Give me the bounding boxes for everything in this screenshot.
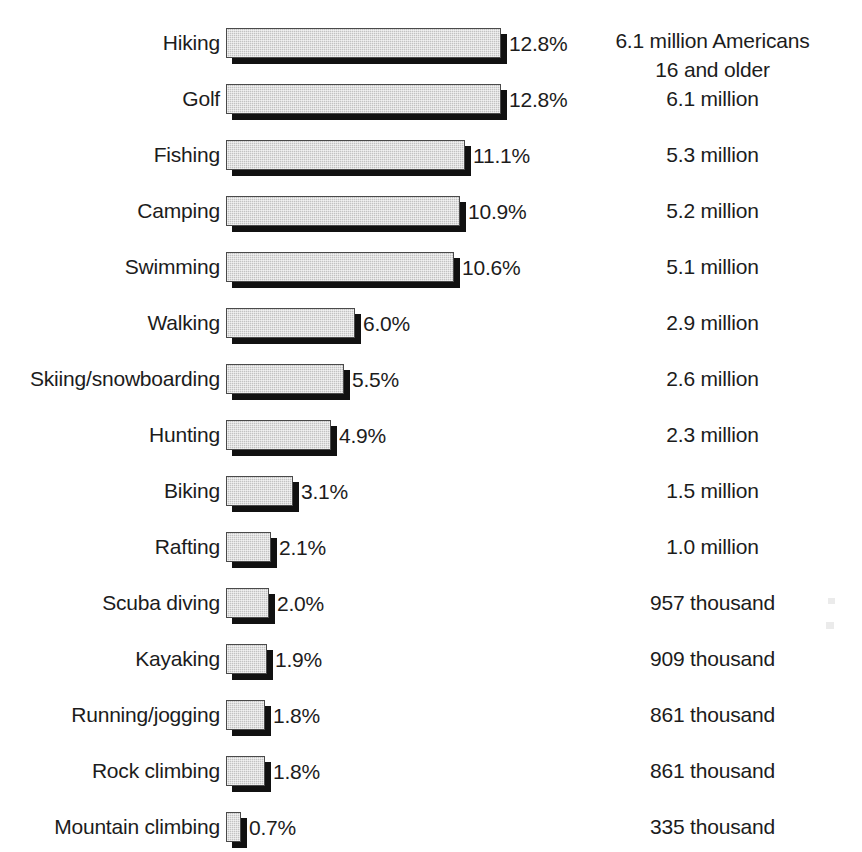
bar-value-label: 10.9%: [468, 196, 527, 226]
bar: [226, 700, 271, 736]
bar-row: Skiing/snowboarding5.5%2.6 million: [0, 364, 862, 420]
bar-row: Swimming10.6%5.1 million: [0, 252, 862, 308]
bar: [226, 812, 247, 848]
category-label: Camping: [0, 196, 220, 226]
category-label: Golf: [0, 84, 220, 114]
annotation-label: 957 thousand: [595, 588, 830, 618]
bar-value-label: 2.0%: [277, 588, 324, 618]
annotation-label: 2.9 million: [595, 308, 830, 338]
bar-row: Mountain climbing0.7%335 thousand: [0, 812, 862, 852]
scan-artifact: [826, 622, 834, 629]
bar: [226, 420, 337, 456]
bar-row: Camping10.9%5.2 million: [0, 196, 862, 252]
bar-value-label: 12.8%: [509, 28, 568, 58]
bar-row: Walking6.0%2.9 million: [0, 308, 862, 364]
category-label: Kayaking: [0, 644, 220, 674]
annotation-label: 5.2 million: [595, 196, 830, 226]
bar-row: Fishing11.1%5.3 million: [0, 140, 862, 196]
bar: [226, 140, 471, 176]
annotation-label: 1.0 million: [595, 532, 830, 562]
bar: [226, 644, 273, 680]
bar-value-label: 0.7%: [249, 812, 296, 842]
bar: [226, 476, 299, 512]
category-label: Scuba diving: [0, 588, 220, 618]
bar-row: Hiking12.8%6.1 million Americans 16 and …: [0, 28, 862, 84]
bar-row: Rock climbing1.8%861 thousand: [0, 756, 862, 812]
bar-row: Golf12.8%6.1 million: [0, 84, 862, 140]
bar: [226, 196, 466, 232]
annotation-label: 5.3 million: [595, 140, 830, 170]
bar: [226, 84, 507, 120]
bar-fill: [226, 644, 267, 674]
bar-fill: [226, 196, 460, 226]
bar-fill: [226, 588, 269, 618]
bar-value-label: 6.0%: [363, 308, 410, 338]
bar-value-label: 5.5%: [352, 364, 399, 394]
bar: [226, 364, 350, 400]
bar-value-label: 12.8%: [509, 84, 568, 114]
annotation-label: 2.6 million: [595, 364, 830, 394]
bar-row: Rafting2.1%1.0 million: [0, 532, 862, 588]
bar: [226, 756, 271, 792]
scan-artifact: [828, 598, 835, 604]
bar-row: Kayaking1.9%909 thousand: [0, 644, 862, 700]
bar-value-label: 1.8%: [273, 700, 320, 730]
bar-value-label: 2.1%: [279, 532, 326, 562]
annotation-label: 6.1 million: [595, 84, 830, 114]
category-label: Fishing: [0, 140, 220, 170]
bar: [226, 532, 277, 568]
category-label: Biking: [0, 476, 220, 506]
category-label: Skiing/snowboarding: [0, 364, 220, 394]
annotation-label: 5.1 million: [595, 252, 830, 282]
annotation-label: 335 thousand: [595, 812, 830, 842]
bar-value-label: 11.1%: [473, 140, 530, 170]
annotation-label: 2.3 million: [595, 420, 830, 450]
bar-fill: [226, 140, 465, 170]
category-label: Running/jogging: [0, 700, 220, 730]
annotation-label: 861 thousand: [595, 756, 830, 786]
bar: [226, 28, 507, 64]
bar-fill: [226, 364, 344, 394]
bar-row: Hunting4.9%2.3 million: [0, 420, 862, 476]
category-label: Swimming: [0, 252, 220, 282]
bar: [226, 252, 460, 288]
annotation-label: 861 thousand: [595, 700, 830, 730]
bar: [226, 308, 361, 344]
annotation-label: 909 thousand: [595, 644, 830, 674]
category-label: Walking: [0, 308, 220, 338]
category-label: Mountain climbing: [0, 812, 220, 842]
bar-fill: [226, 252, 454, 282]
bar-fill: [226, 308, 355, 338]
bar: [226, 588, 275, 624]
bar-row: Biking3.1%1.5 million: [0, 476, 862, 532]
bar-fill: [226, 756, 265, 786]
annotation-label: 1.5 million: [595, 476, 830, 506]
bar-value-label: 4.9%: [339, 420, 386, 450]
bar-fill: [226, 700, 265, 730]
annotation-label: 6.1 million Americans 16 and older: [595, 26, 830, 86]
bar-fill: [226, 84, 501, 114]
bar-value-label: 3.1%: [301, 476, 348, 506]
bar-fill: [226, 812, 241, 842]
bar-row: Scuba diving2.0%957 thousand: [0, 588, 862, 644]
category-label: Rafting: [0, 532, 220, 562]
bar-value-label: 1.8%: [273, 756, 320, 786]
category-label: Rock climbing: [0, 756, 220, 786]
category-label: Hunting: [0, 420, 220, 450]
category-label: Hiking: [0, 28, 220, 58]
bar-fill: [226, 28, 501, 58]
bar-value-label: 10.6%: [462, 252, 521, 282]
bar-fill: [226, 532, 271, 562]
bar-fill: [226, 476, 293, 506]
bar-fill: [226, 420, 331, 450]
bar-value-label: 1.9%: [275, 644, 322, 674]
bar-row: Running/jogging1.8%861 thousand: [0, 700, 862, 756]
